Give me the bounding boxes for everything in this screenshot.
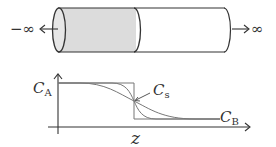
cylinder: −∞ ∞ [10,8,264,52]
concentration-graph: CA Cs CB z [33,74,250,147]
z-axis-label: z [130,128,141,147]
shaded-region [58,8,136,52]
ca-label: CA [33,79,52,98]
cs-label: Cs [153,81,170,100]
cylinder-left-end [53,8,66,52]
cylinder-right-end [224,8,231,52]
minus-infinity-label: −∞ [10,20,35,38]
diffusion-diagram: −∞ ∞ CA Cs CB z [0,0,276,147]
cs-pointer [136,93,150,100]
cb-label: CB [220,108,239,127]
infinity-label: ∞ [251,20,264,38]
